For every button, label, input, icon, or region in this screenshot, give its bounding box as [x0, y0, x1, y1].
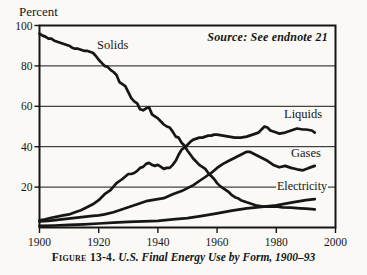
- figure-number: Figure 13-4.: [52, 251, 116, 263]
- svg-text:80: 80: [21, 60, 33, 72]
- series-label-gases: Gases: [291, 146, 321, 161]
- svg-text:1980: 1980: [265, 236, 288, 248]
- svg-text:60: 60: [21, 100, 33, 112]
- svg-text:1960: 1960: [206, 236, 229, 248]
- y-axis-title: Percent: [19, 4, 58, 20]
- series-line-solids: [40, 34, 315, 210]
- figure-caption: Figure 13-4. U.S. Final Energy Use by Fo…: [0, 251, 367, 263]
- series-label-liquids: Liquids: [284, 107, 322, 122]
- svg-text:1920: 1920: [87, 236, 110, 248]
- series-label-electricity: Electricity: [276, 179, 328, 194]
- figure-title: U.S. Final Energy Use by Form, 1900–93: [118, 251, 315, 263]
- svg-text:20: 20: [21, 181, 33, 193]
- svg-text:40: 40: [21, 141, 33, 153]
- series-label-solids: Solids: [97, 38, 128, 53]
- source-note: Source: See endnote 21: [207, 30, 328, 45]
- series-line-electricity: [40, 199, 315, 226]
- svg-text:1940: 1940: [146, 236, 169, 248]
- svg-text:1900: 1900: [28, 236, 51, 248]
- figure-13-4: 20406080100190019201940196019802000 Perc…: [0, 0, 367, 275]
- svg-text:100: 100: [15, 20, 33, 32]
- svg-text:2000: 2000: [324, 236, 347, 248]
